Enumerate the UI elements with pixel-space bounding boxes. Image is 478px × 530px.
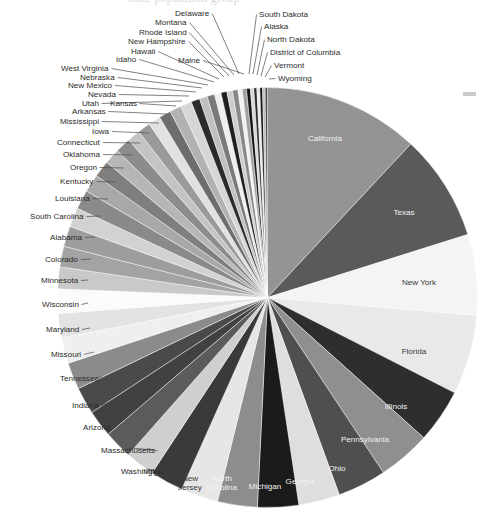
slice-label-connecticut: Connecticut [57,138,100,147]
slice-label-kansas: Kansas [110,99,137,108]
leader-line [265,66,272,78]
slice-label-oregon: Oregon [70,163,97,172]
slice-label-colorado: Colorado [45,255,78,264]
slice-label-idaho: Idaho [116,55,137,64]
leader-line [81,280,88,281]
slice-label-rhode-island: Rhode Island [139,28,187,37]
slice-label-nevada: Nevada [88,90,116,99]
pie-chart: CaliforniaTexasNew YorkFloridaIllinoisPe… [0,0,478,530]
slice-label-florida: Florida [402,347,427,356]
slice-label-tennessee: Tennessee [60,374,100,383]
slice-label-georgia: Georgia [286,477,315,486]
slice-label-washington: Washington [121,467,163,476]
slice-label-district-of-columbia: District of Columbia [270,48,341,57]
leader-line [102,122,159,124]
slice-label-maine: Maine [178,56,201,65]
slice-label-wyoming: Wyoming [278,74,312,83]
slice-label-mississippi: Mississippi [60,117,99,126]
leader-line [261,53,268,77]
slice-label-iowa: Iowa [92,127,110,136]
slice-label-alaska: Alaska [264,22,289,31]
leader-line [93,199,108,200]
leader-line [140,104,177,107]
leader-line [119,95,189,97]
slice-label-michigan: Michigan [249,482,281,491]
slice-label-alabama: Alabama [50,233,82,242]
slice-label-new-mexico: New Mexico [68,81,113,90]
leader-line [103,155,132,156]
slice-label-indiana: Indiana [72,401,99,410]
slice-label-delaware: Delaware [175,9,210,18]
slice-label-new-hampshire: New Hampshire [128,37,186,46]
slice-label-california: California [308,134,343,143]
leader-line [87,216,102,217]
leader-line [97,182,116,183]
leader-line [85,237,95,238]
leader-line [189,33,229,77]
slice-label-missouri: Missouri [51,350,81,359]
slice-label-vermont: Vermont [274,61,305,70]
slice-label-oklahoma: Oklahoma [63,150,100,159]
slice-label-louisiana: Louisiana [55,194,90,203]
slice-label-kentucky: Kentucky [60,177,94,186]
leader-line [115,86,196,93]
slice-label-south-carolina: South Carolina [30,212,84,221]
slice-label-pennsylvania: Pennsylvania [341,435,390,444]
slice-label-north-dakota: North Dakota [267,35,315,44]
slice-label-hawaii: Hawaii [131,47,155,56]
slice-label-utah: Utah [82,99,99,108]
leader-line [81,259,91,260]
slice-label-arkansas: Arkansas [72,107,106,116]
leader-line [100,168,125,169]
slice-label-illinois: Illinois [385,402,408,411]
leader-line [103,143,140,144]
slice-label-south-dakota: South Dakota [259,10,309,19]
slice-label-montana: Montana [155,18,187,27]
leader-line [249,15,257,75]
slice-label-maryland: Maryland [46,325,79,334]
slice-label-ohio: Ohio [328,464,346,473]
pie-slices[interactable] [57,87,477,507]
slice-label-arizona: Arizona [83,423,111,432]
slice-label-new-york: New York [402,278,437,287]
slice-label-west-virginia: West Virginia [61,64,109,73]
leader-line [269,79,276,80]
slice-label-nebraska: Nebraska [80,73,115,82]
slice-label-wisconsin: Wisconsin [42,300,79,309]
slice-label-massachusetts: Massachusetts [101,446,155,455]
slice-label-texas: Texas [393,208,414,217]
chart-stage: state population group CaliforniaTexasNe… [0,0,478,530]
slice-label-minnesota: Minnesota [41,276,79,285]
leader-line [139,60,214,83]
leader-line [108,112,167,115]
